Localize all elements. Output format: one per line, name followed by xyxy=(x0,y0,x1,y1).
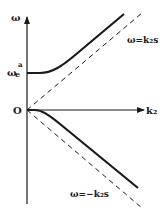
y-axis-label: ω xyxy=(11,12,21,23)
upper-branch-curve xyxy=(27,14,124,73)
origin-label: O xyxy=(13,105,22,116)
y-intercept-superscript: a xyxy=(18,60,23,69)
y-intercept-label: ω e a xyxy=(7,60,23,79)
asymptote-positive-label: ω=k₂s xyxy=(127,35,158,45)
lower-branch-curve xyxy=(27,110,138,188)
x-axis-label: k₂ xyxy=(146,105,157,116)
asymptote-negative-label: ω=−k₂s xyxy=(70,189,109,199)
y-intercept-subscript: e xyxy=(15,69,20,79)
asymptote-positive xyxy=(27,13,142,110)
dispersion-diagram: ω k₂ O ω e a ω=k₂s ω=−k₂s xyxy=(0,0,167,217)
